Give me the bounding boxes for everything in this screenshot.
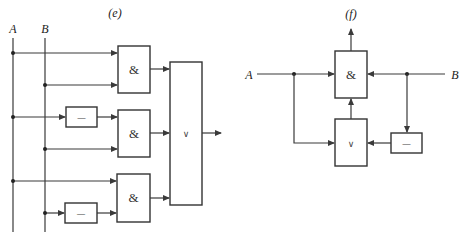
- input-a-label: A: [8, 22, 17, 36]
- input-b-label: B: [451, 68, 459, 82]
- not-symbol: —: [77, 113, 86, 123]
- junction: [11, 179, 15, 183]
- caption-e: (e): [108, 6, 121, 20]
- or-symbol: ∨: [183, 129, 190, 139]
- not-symbol: —: [402, 139, 411, 149]
- junction: [43, 211, 47, 215]
- junction: [43, 147, 47, 151]
- and-symbol: &: [129, 126, 139, 141]
- logic-diagrams: (e) A B & — & & —: [0, 0, 470, 235]
- and-symbol: &: [346, 67, 356, 82]
- or-symbol: ∨: [348, 139, 355, 149]
- diagram-e: (e) A B & — & & —: [8, 6, 221, 232]
- input-b-label: B: [41, 22, 49, 36]
- diagram-f: (f) A B & — ∨: [244, 7, 459, 166]
- caption-f: (f): [345, 7, 356, 21]
- input-a-label: A: [244, 68, 253, 82]
- junction: [43, 83, 47, 87]
- wire-a-or: [294, 74, 334, 143]
- junction: [11, 115, 15, 119]
- not-symbol: —: [77, 209, 86, 219]
- junction: [11, 51, 15, 55]
- and-symbol: &: [129, 62, 139, 77]
- and-symbol: &: [128, 190, 138, 205]
